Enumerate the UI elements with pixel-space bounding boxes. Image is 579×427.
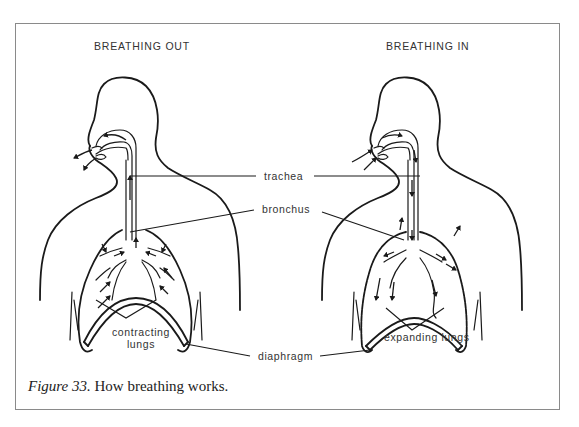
panel-title-breathing-out: BREATHING OUT bbox=[94, 40, 190, 52]
label-bronchus: bronchus bbox=[260, 203, 312, 215]
figure-caption: Figure 33. How breathing works. bbox=[28, 378, 228, 395]
caption-text: How breathing works. bbox=[91, 378, 228, 394]
caption-figure-number: Figure 33. bbox=[28, 378, 91, 394]
label-diaphragm: diaphragm bbox=[256, 350, 315, 362]
figure-breathing-out bbox=[40, 77, 240, 351]
label-trachea: trachea bbox=[262, 170, 305, 182]
label-expanding-lungs: expanding lungs bbox=[382, 331, 471, 343]
label-contracting-line1: contracting bbox=[112, 326, 170, 338]
panel-title-breathing-in: BREATHING IN bbox=[386, 40, 470, 52]
figure-breathing-in bbox=[322, 77, 522, 352]
label-contracting-line2: lungs bbox=[112, 338, 170, 350]
label-contracting-lungs: contracting lungs bbox=[110, 326, 172, 350]
